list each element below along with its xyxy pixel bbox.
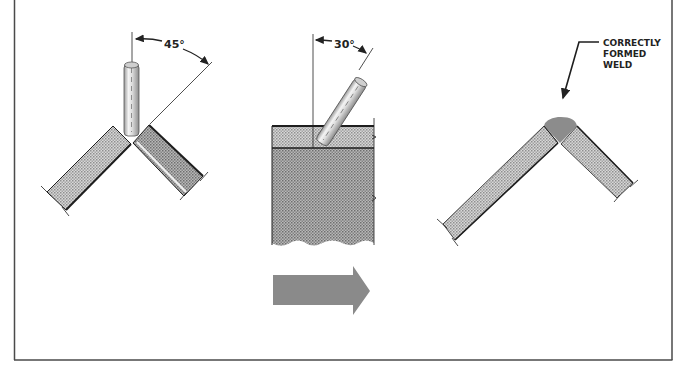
svg-text:FORMED: FORMED [603,49,646,59]
left-plate [443,126,558,240]
angle-arc-arrow [353,46,366,53]
panel-corner-joint-45: 45° [41,32,212,216]
left-plate [47,126,131,210]
callout-label: CORRECTLY FORMED WELD [603,38,661,70]
panel-finished-weld: CORRECTLY FORMED WELD [437,38,661,246]
angle-label-30: 30° [334,38,355,51]
angle-reference-line [150,62,212,124]
diagram-canvas: 45° [0,0,697,369]
angle-reference-line [359,48,373,70]
angle-arc-arrow [183,49,208,64]
svg-text:WELD: WELD [603,60,632,70]
angle-label-45: 45° [164,38,185,51]
callout-leader-arrow [563,42,599,98]
travel-direction-arrow [273,266,370,315]
angle-arc-arrow [136,39,162,41]
electrode-rod [124,62,139,136]
right-plate [133,125,203,196]
right-plate [561,126,633,198]
angle-arc-arrow [316,40,332,41]
svg-text:CORRECTLY: CORRECTLY [603,38,661,48]
panel-electrode-tilt-30: 30° [272,34,376,246]
